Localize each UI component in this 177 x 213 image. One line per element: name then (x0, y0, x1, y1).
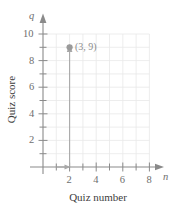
plot-area: q n 10 8 6 4 2 2 4 6 8 (3, 9) Quiz numbe… (0, 0, 177, 213)
horizontal-annotation-arrow (56, 164, 70, 169)
y-axis-variable-label: q (29, 11, 34, 22)
y-tick-label-4: 4 (29, 109, 34, 120)
x-axis-line (30, 164, 164, 171)
y-axis-title: Quiz score (6, 67, 17, 133)
x-tick-label-8: 8 (146, 175, 151, 186)
grid-lines (43, 34, 149, 167)
quiz-score-scatter-figure: q n 10 8 6 4 2 2 4 6 8 (3, 9) Quiz numbe… (0, 0, 177, 213)
y-tick-label-2: 2 (29, 135, 34, 146)
x-axis-title: Quiz number (43, 192, 153, 203)
y-tick-label-6: 6 (29, 82, 34, 93)
x-tick-label-2: 2 (67, 175, 72, 186)
y-tick-label-10: 10 (23, 29, 34, 40)
y-tick-label-8: 8 (29, 56, 34, 67)
x-axis-variable-label: n (163, 172, 168, 183)
point-coordinate-label: (3, 9) (75, 42, 97, 52)
vertical-annotation-arrow (67, 44, 73, 167)
x-tick-label-6: 6 (120, 175, 125, 186)
x-tick-label-4: 4 (93, 175, 98, 186)
y-axis-line (40, 14, 47, 175)
data-point-3-9 (67, 44, 73, 50)
